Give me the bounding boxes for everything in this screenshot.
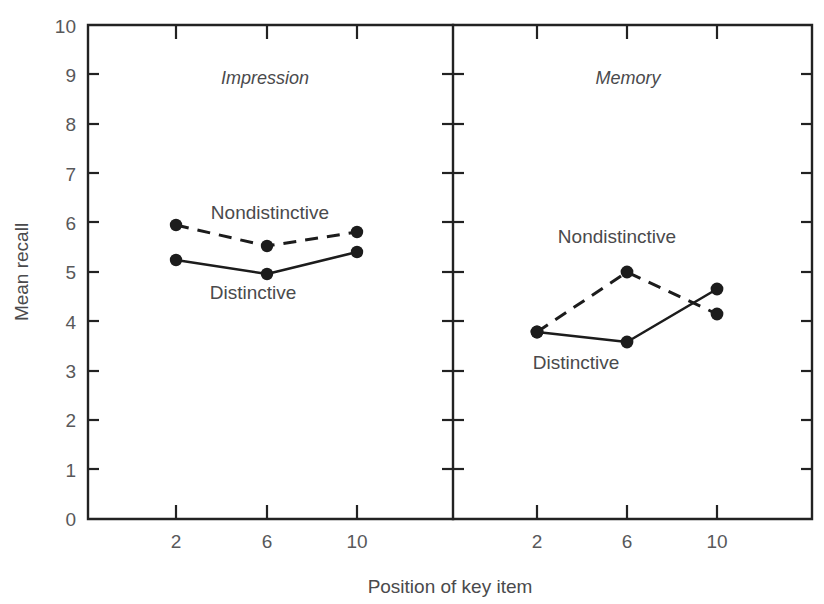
data-point [621,266,634,279]
x-tick-label: 10 [346,531,367,552]
x-tick-label: 6 [622,531,633,552]
figure-container: 10 9 8 7 6 5 4 3 2 1 0 Mean recall [0,0,824,604]
mean-recall-chart: 10 9 8 7 6 5 4 3 2 1 0 Mean recall [0,0,824,604]
series-label-distinctive-impression: Distinctive [210,282,297,303]
series-label-distinctive-memory: Distinctive [533,352,620,373]
y-tick-label: 9 [65,65,76,86]
data-point [351,226,363,238]
data-point [621,336,634,349]
x-axis-title: Position of key item [368,576,533,597]
series-label-nondistinctive-memory: Nondistinctive [558,226,676,247]
y-tick-label: 7 [65,164,76,185]
panel-impression: Impression Nondistinctive Distinctive [170,68,363,303]
panel-title-impression: Impression [221,68,309,88]
y-ticks-left [88,74,99,469]
y-tick-label: 2 [65,410,76,431]
y-tick-label: 4 [65,312,76,333]
x-ticks-top-right [537,25,717,39]
data-point [261,268,273,280]
data-point [170,254,182,266]
y-tick-label: 6 [65,213,76,234]
series-label-nondistinctive-impression: Nondistinctive [211,202,329,223]
x-tick-label: 10 [706,531,727,552]
x-ticks-bottom-right [537,505,717,519]
x-tick-label: 2 [532,531,543,552]
x-tick-label: 2 [171,531,182,552]
y-tick-label: 1 [65,460,76,481]
series-line-nondistinctive-memory [537,272,717,332]
y-tick-label: 10 [55,16,76,37]
y-axis-title: Mean recall [11,223,32,321]
y-tick-label: 5 [65,262,76,283]
data-point [261,240,273,252]
data-point [531,326,544,339]
data-point [711,283,724,296]
y-tick-label: 0 [65,509,76,530]
x-tick-label: 6 [262,531,273,552]
y-tick-label: 8 [65,114,76,135]
x-ticks-top-left [176,25,357,39]
y-tick-label: 3 [65,361,76,382]
data-point [170,219,182,231]
y-ticks-right [801,74,812,469]
x-axis-tick-labels-left: 2 6 10 [171,531,368,552]
y-axis-tick-labels: 10 9 8 7 6 5 4 3 2 1 0 [55,16,77,530]
x-axis-tick-labels-right: 2 6 10 [532,531,728,552]
panel-title-memory: Memory [595,68,661,88]
data-point [711,308,724,321]
panel-memory: Memory Nondistinctive Distinctive [531,68,724,373]
x-ticks-bottom-left [176,505,357,519]
data-point [351,246,363,258]
